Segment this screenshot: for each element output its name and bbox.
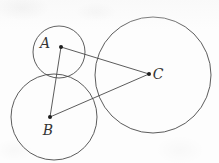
segment-ac xyxy=(61,47,149,74)
vertex-dot-a xyxy=(59,45,63,49)
geometry-figure: A B C xyxy=(0,0,219,163)
vertex-dot-c xyxy=(147,72,151,76)
vertex-label-b: B xyxy=(42,122,53,138)
geometry-canvas: A B C xyxy=(0,0,219,163)
vertex-dot-b xyxy=(48,115,52,119)
segment-bc xyxy=(50,74,149,117)
vertex-label-c: C xyxy=(153,66,164,82)
segment-ab xyxy=(50,47,61,117)
vertex-label-a: A xyxy=(38,35,50,51)
circle-centered-at-b xyxy=(11,74,97,160)
